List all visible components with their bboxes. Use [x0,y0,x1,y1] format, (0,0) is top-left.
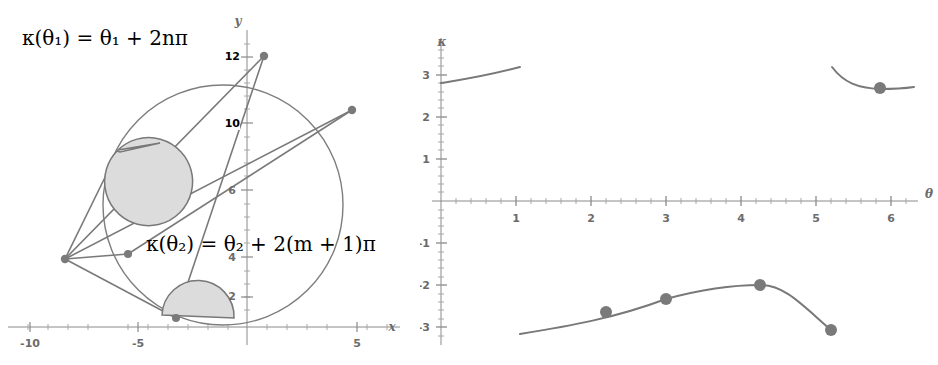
right-axes [432,38,918,345]
kappa-axis-label: κ [437,35,447,49]
marker-lower-2 [660,293,672,305]
xtick-label--5: -5 [132,337,144,350]
ytick-label-6: 6 [228,184,236,197]
angle-sector-lower [162,280,234,318]
branch-upper-right [832,67,914,89]
theta-tick-4: 4 [737,212,745,225]
kappa-tick--3: -3 [420,321,430,334]
theta-axis-label: θ [925,187,933,201]
left-geometry-panel: -10 -5 5 2 4 6 8 10 y x 12 10 κ(θ₁) = θ₁… [0,0,470,365]
branch-upper-left [441,67,520,83]
kappa-tick--2: -2 [420,279,430,292]
y-axis-label: y [234,14,243,28]
marker-point-mid [124,250,132,258]
kappa-tick--1: -1 [420,237,430,250]
theta-tick-3: 3 [662,212,670,225]
left-geometry-svg: -10 -5 5 2 4 6 8 10 y x [0,0,470,365]
theta-tick-6: 6 [887,212,895,225]
equation-2-text: κ(θ₂) = θ₂ + 2(m + 1)π [146,232,376,256]
kappa-markers [600,82,886,336]
marker-point-theta1 [260,52,268,60]
theta-tick-1: 1 [512,212,520,225]
kappa-tick-3: 3 [422,69,430,82]
marker-point-upper-right [348,106,356,114]
ytick-label-2: 2 [228,290,236,303]
kappa-tick-2: 2 [422,111,430,124]
ytick-label-8: 8 [228,117,236,130]
figure-root: -10 -5 5 2 4 6 8 10 y x 12 10 κ(θ₁) = θ₁… [0,0,938,365]
marker-upper-right [874,82,886,94]
kappa-tick-1: 1 [422,153,430,166]
xtick-label-5: 5 [353,337,361,350]
marker-apex-vertex [61,255,69,263]
x-axis-label: x [387,320,396,334]
equation-1-text: κ(θ₁) = θ₁ + 2nπ [22,26,188,50]
right-kappa-svg: 1 2 3 4 5 6 3 2 1 -1 -2 -3 κ θ [420,0,938,365]
marker-point-theta2 [172,314,180,322]
theta-tick-5: 5 [812,212,820,225]
marker-lower-1 [600,306,612,318]
theta-tick-2: 2 [587,212,595,225]
branch-lower [520,285,831,334]
marker-lower-3 [754,279,766,291]
marker-lower-4 [825,324,837,336]
angle-sector-upper [105,138,193,226]
equation-1: κ(θ₁) = θ₁ + 2nπ [22,26,188,50]
ytick-label-10: 10 [223,51,239,64]
equation-2: κ(θ₂) = θ₂ + 2(m + 1)π [146,232,376,256]
right-kappa-panel: 1 2 3 4 5 6 3 2 1 -1 -2 -3 κ θ [420,0,938,365]
xtick-label--10: -10 [20,337,40,350]
